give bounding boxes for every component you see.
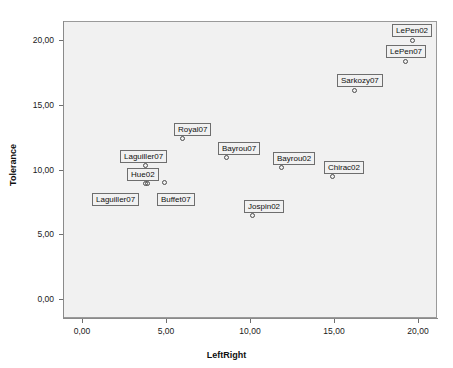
data-point-marker[interactable]: [162, 180, 167, 185]
data-point-marker[interactable]: [143, 163, 148, 168]
x-tick-label: 10,00: [230, 326, 270, 336]
x-tick-label: 15,00: [314, 326, 354, 336]
data-point-marker[interactable]: [180, 136, 185, 141]
data-point-label[interactable]: Laguiller07: [92, 193, 139, 206]
x-tick-label: 5,00: [146, 326, 186, 336]
y-tick-mark: [59, 299, 63, 300]
data-point-marker[interactable]: [403, 59, 408, 64]
data-point-label[interactable]: Laguiller07: [120, 150, 167, 163]
data-point-label[interactable]: LePen02: [392, 24, 432, 37]
y-tick-label: 20,00: [14, 35, 54, 45]
y-tick-label: 0,00: [14, 294, 54, 304]
x-tick-mark: [166, 319, 167, 323]
data-point-label[interactable]: Hue02: [127, 168, 159, 181]
data-point-marker[interactable]: [279, 165, 284, 170]
scatter-plot-figure: 0,005,0010,0015,0020,000,005,0010,0015,0…: [0, 0, 453, 368]
x-axis-title: LeftRight: [0, 350, 453, 360]
data-point-label[interactable]: Sarkozy07: [337, 74, 383, 87]
data-point-marker[interactable]: [145, 181, 150, 186]
y-tick-mark: [59, 40, 63, 41]
data-point-label[interactable]: Royal07: [174, 123, 211, 136]
plot-area: [63, 21, 437, 318]
x-tick-mark: [250, 319, 251, 323]
data-point-label[interactable]: LePen07: [386, 45, 426, 58]
data-point-marker[interactable]: [224, 155, 229, 160]
y-axis-spine: [63, 21, 64, 319]
y-tick-label: 10,00: [14, 165, 54, 175]
y-tick-mark: [59, 105, 63, 106]
y-tick-mark: [59, 170, 63, 171]
data-point-marker[interactable]: [410, 38, 415, 43]
x-tick-label: 20,00: [398, 326, 438, 336]
data-point-label[interactable]: Jospin02: [244, 200, 284, 213]
data-point-label[interactable]: Chirac02: [324, 161, 364, 174]
data-point-label[interactable]: Bayrou07: [218, 142, 260, 155]
x-tick-label: 0,00: [62, 326, 102, 336]
data-point-label[interactable]: Bayrou02: [273, 152, 315, 165]
y-axis-title: Tolerance: [8, 125, 18, 205]
data-point-label[interactable]: Buffet07: [157, 193, 195, 206]
y-tick-label: 5,00: [14, 229, 54, 239]
data-point-marker[interactable]: [330, 174, 335, 179]
data-point-marker[interactable]: [352, 88, 357, 93]
data-point-marker[interactable]: [250, 213, 255, 218]
y-tick-label: 15,00: [14, 100, 54, 110]
x-tick-mark: [418, 319, 419, 323]
x-tick-mark: [82, 319, 83, 323]
y-tick-mark: [59, 234, 63, 235]
x-tick-mark: [334, 319, 335, 323]
